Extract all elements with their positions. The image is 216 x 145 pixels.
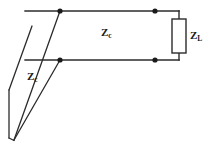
- label-perspective-characteristic-impedance: Zc: [27, 71, 38, 82]
- label-zc-subscript: c: [108, 31, 111, 40]
- load-impedance-resistor-body: [172, 19, 186, 53]
- label-zl-subscript: L: [197, 34, 202, 43]
- node-bottom-left-dot: [57, 57, 62, 62]
- label-zc-persp-subscript: c: [34, 75, 37, 84]
- label-load-impedance: ZL: [190, 30, 202, 41]
- perspective-bottom-join-segment: [9, 138, 14, 141]
- label-line-characteristic-impedance: Zc: [101, 27, 112, 38]
- node-top-right-dot: [152, 8, 157, 13]
- node-top-left-dot: [57, 8, 62, 13]
- circuit-diagram-figure: Zc Zc ZL: [0, 0, 216, 145]
- node-bottom-right-dot: [152, 57, 157, 62]
